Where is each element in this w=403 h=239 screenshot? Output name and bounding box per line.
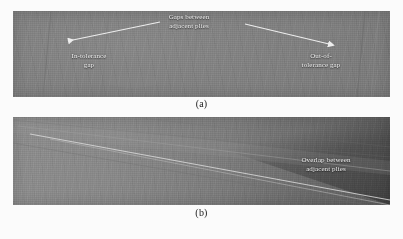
caption-panel-a: (a) [0,98,403,109]
caption-panel-b: (b) [0,207,403,218]
label-overlap-between-adjacent-plies: Overlap between adjacent plies [264,156,388,173]
figure-container: Gaps between adjacent plies In-tolerance… [0,0,403,239]
label-in-tolerance-gap: In-tolerance gap [42,52,136,69]
arrow-to-out-of-tolerance-gap [245,24,329,44]
label-out-of-tolerance-gap: Out-of- tolerance gap [268,52,374,69]
label-gaps-between-adjacent-plies: Gaps between adjacent plies [127,13,251,30]
